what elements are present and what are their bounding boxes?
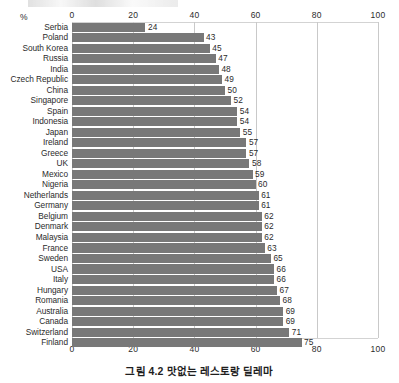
- scan-artifact: [28, 0, 178, 7]
- category-label: Spain: [0, 107, 68, 116]
- bar-value-label: 65: [273, 254, 282, 263]
- category-label: Mexico: [0, 170, 68, 179]
- category-label: Belgium: [0, 212, 68, 221]
- bar-value-label: 61: [261, 191, 270, 200]
- category-label: China: [0, 86, 68, 95]
- category-label: Denmark: [0, 222, 68, 231]
- bar-value-label: 52: [234, 96, 243, 105]
- bar: [72, 233, 262, 242]
- category-label: Germany: [0, 201, 68, 210]
- category-label: USA: [0, 265, 68, 274]
- category-label: Czech Republic: [0, 75, 68, 84]
- figure-caption: 그림 4.2 맛없는 레스토랑 딜레마: [0, 363, 399, 378]
- bar: [72, 254, 271, 263]
- bar: [72, 149, 246, 158]
- bar-value-label: 62: [264, 233, 273, 242]
- bar: [72, 54, 216, 63]
- category-label: India: [0, 65, 68, 74]
- category-label: Malaysia: [0, 233, 68, 242]
- bar: [72, 307, 283, 316]
- category-label: Canada: [0, 317, 68, 326]
- figure-container: % 020406080100 020406080100 Serbia24Pola…: [0, 0, 399, 383]
- bar-value-label: 57: [249, 138, 258, 147]
- bar: [72, 180, 256, 189]
- bar: [72, 296, 280, 305]
- category-label: Switzerland: [0, 328, 68, 337]
- x-tick-top-80: 80: [312, 10, 322, 20]
- bar: [72, 212, 262, 221]
- bar: [72, 201, 259, 210]
- category-label: Indonesia: [0, 117, 68, 126]
- bar-value-label: 58: [252, 159, 261, 168]
- bar-value-label: 67: [280, 286, 289, 295]
- bar-value-label: 57: [249, 149, 258, 158]
- percent-axis-label: %: [20, 12, 28, 22]
- bar: [72, 338, 302, 347]
- bar-value-label: 54: [240, 117, 249, 126]
- category-label: Hungary: [0, 286, 68, 295]
- bar-value-label: 63: [267, 244, 276, 253]
- category-label: Nigeria: [0, 180, 68, 189]
- bar: [72, 317, 283, 326]
- bar-value-label: 45: [212, 44, 221, 53]
- bar: [72, 328, 289, 337]
- bar-value-label: 69: [286, 307, 295, 316]
- category-label: Sweden: [0, 254, 68, 263]
- bar-value-label: 68: [283, 296, 292, 305]
- bar: [72, 286, 277, 295]
- bar-value-label: 69: [286, 317, 295, 326]
- bar-value-label: 62: [264, 222, 273, 231]
- bar-value-label: 54: [240, 107, 249, 116]
- x-tick-top-40: 40: [189, 10, 199, 20]
- x-tick-top-20: 20: [128, 10, 138, 20]
- bar-value-label: 75: [304, 338, 313, 347]
- bar: [72, 191, 259, 200]
- category-label: France: [0, 244, 68, 253]
- bar: [72, 96, 231, 105]
- category-label: Finland: [0, 338, 68, 347]
- bar-value-label: 66: [276, 265, 285, 274]
- bar: [72, 222, 262, 231]
- category-label: Poland: [0, 33, 68, 42]
- bar: [72, 23, 145, 32]
- bar-value-label: 60: [258, 180, 267, 189]
- bar: [72, 128, 240, 137]
- bar: [72, 107, 237, 116]
- category-label: South Korea: [0, 44, 68, 53]
- bar: [72, 86, 225, 95]
- bar: [72, 170, 253, 179]
- category-label: Netherlands: [0, 191, 68, 200]
- bar-value-label: 43: [206, 33, 215, 42]
- category-label: Ireland: [0, 138, 68, 147]
- bar: [72, 159, 249, 168]
- bar-value-label: 71: [292, 328, 301, 337]
- bar: [72, 44, 210, 53]
- bar-value-label: 62: [264, 212, 273, 221]
- category-label: Greece: [0, 149, 68, 158]
- category-label: Russia: [0, 54, 68, 63]
- bar: [72, 138, 246, 147]
- bar: [72, 117, 237, 126]
- x-tick-top-60: 60: [251, 10, 261, 20]
- category-label: Australia: [0, 307, 68, 316]
- category-label: UK: [0, 159, 68, 168]
- bar: [72, 275, 274, 284]
- bar-value-label: 55: [243, 128, 252, 137]
- bar: [72, 33, 204, 42]
- bar-value-label: 47: [218, 54, 227, 63]
- category-label: Singapore: [0, 96, 68, 105]
- bar: [72, 264, 274, 273]
- bar-value-label: 59: [255, 170, 264, 179]
- bar: [72, 75, 222, 84]
- bar: [72, 65, 219, 74]
- bar-row: Finland75: [0, 338, 399, 349]
- x-tick-top-0: 0: [70, 10, 75, 20]
- bar-value-label: 48: [221, 65, 230, 74]
- bar-value-label: 24: [148, 23, 157, 32]
- bar-value-label: 66: [276, 275, 285, 284]
- bar: [72, 243, 265, 252]
- x-tick-top-100: 100: [371, 10, 386, 20]
- bar-value-label: 61: [261, 201, 270, 210]
- bar-value-label: 49: [224, 75, 233, 84]
- category-label: Romania: [0, 296, 68, 305]
